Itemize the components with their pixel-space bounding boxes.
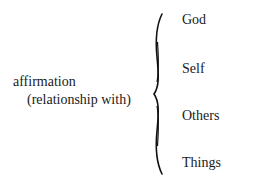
left-label-line2: (relationship with) xyxy=(27,92,131,108)
item-god: God xyxy=(182,12,206,28)
curly-brace-icon xyxy=(150,12,166,176)
left-label-line1: affirmation xyxy=(13,74,76,90)
item-things: Things xyxy=(182,155,221,171)
item-others: Others xyxy=(182,108,219,124)
item-self: Self xyxy=(182,61,205,77)
